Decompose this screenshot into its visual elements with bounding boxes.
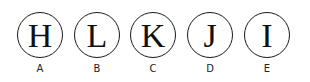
option-e: I E (240, 0, 296, 82)
circled-letter: H (17, 12, 63, 58)
option-label: E (240, 63, 294, 74)
option-c: K C (126, 0, 182, 82)
circled-letter: K (130, 12, 176, 58)
circled-letter: J (187, 12, 233, 58)
option-d: J D (183, 0, 239, 82)
option-a: H A (13, 0, 69, 82)
option-b: L B (70, 0, 126, 82)
circled-letter: L (74, 12, 120, 58)
option-label: A (13, 63, 67, 74)
option-label: B (70, 63, 124, 74)
letter: J (203, 19, 216, 53)
letter: H (28, 19, 53, 53)
option-label: C (126, 63, 180, 74)
letter: L (87, 19, 108, 53)
letter: K (141, 19, 166, 53)
letter: I (261, 19, 272, 53)
option-label: D (183, 63, 237, 74)
circled-letter: I (244, 12, 290, 58)
